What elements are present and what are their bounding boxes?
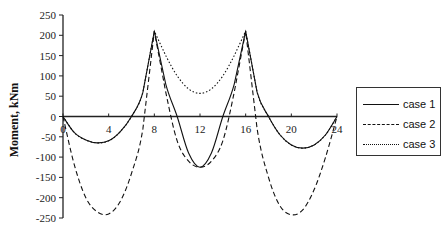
y-tick-label: -150	[36, 171, 57, 183]
x-tick-label: 16	[240, 123, 252, 135]
y-tick-label: -50	[41, 131, 56, 143]
legend-label: case 1	[403, 98, 435, 110]
y-tick-label: 50	[45, 90, 57, 102]
dotted-line-icon	[363, 144, 399, 145]
y-tick-label: 250	[40, 9, 57, 21]
y-axis-label: Moment, kNm	[4, 60, 24, 180]
x-tick-label: 4	[106, 123, 112, 135]
solid-line-icon	[363, 104, 399, 105]
legend-label: case 2	[403, 118, 435, 130]
series-line-case-1	[63, 31, 337, 167]
y-tick-label: 100	[40, 70, 57, 82]
x-tick-label: 8	[152, 123, 158, 135]
legend-label: case 3	[403, 138, 435, 150]
y-tick-label: -100	[36, 151, 57, 163]
legend-item-case-2: case 2	[363, 117, 435, 131]
x-tick-label: 12	[195, 123, 206, 135]
y-tick-label: 0	[51, 111, 57, 123]
y-tick-label: -200	[36, 192, 57, 204]
chart-legend: case 1 case 2 case 3	[356, 87, 441, 156]
legend-item-case-3: case 3	[363, 137, 435, 151]
x-tick-label: 20	[286, 123, 298, 135]
dashed-line-icon	[363, 124, 399, 125]
y-tick-label: 200	[40, 29, 57, 41]
y-tick-label: 150	[40, 50, 57, 62]
legend-item-case-1: case 1	[363, 97, 435, 111]
y-tick-label: -250	[36, 212, 57, 224]
y-axis-label-text: Moment, kNm	[7, 83, 22, 158]
